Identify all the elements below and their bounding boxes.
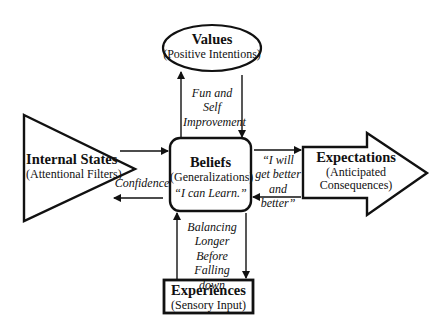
annotation-line: get better xyxy=(253,167,303,181)
experiences-subtitle: (Sensory Input) xyxy=(164,299,253,312)
expectations-label: Expectations (Anticipated Consequences) xyxy=(316,150,396,192)
values-subtitle: (Positive Intentions) xyxy=(163,48,261,61)
annotation-line: Self xyxy=(183,100,241,114)
annotation-line: Improvement xyxy=(183,115,241,129)
annotation-line: “I will xyxy=(253,153,303,167)
annotation-line: Balancing xyxy=(180,220,244,234)
internal-states-title: Internal States xyxy=(26,152,110,168)
annotation-beliefs-expectations: “I will get better and better” xyxy=(253,153,303,211)
annotation-beliefs-experiences: Balancing Longer Before Falling down xyxy=(180,220,244,292)
annotation-line: Before xyxy=(180,249,244,263)
internal-states-label: Internal States (Attentional Filters) xyxy=(26,152,110,181)
annotation-line: Fun and xyxy=(183,86,241,100)
beliefs-label: Beliefs (Generalizations) “I can Learn.” xyxy=(170,155,251,200)
beliefs-subtitle: (Generalizations) xyxy=(170,171,251,184)
annotation-line: Falling down xyxy=(180,263,244,292)
values-title: Values xyxy=(163,32,261,48)
annotation-confidence: Confidence xyxy=(114,176,170,190)
annotation-line: Longer xyxy=(180,234,244,248)
annotation-line: and better” xyxy=(253,182,303,211)
expectations-title: Expectations xyxy=(316,150,396,166)
expectations-subtitle-2: Consequences) xyxy=(316,179,396,192)
annotation-line: Confidence xyxy=(114,176,170,190)
values-label: Values (Positive Intentions) xyxy=(163,32,261,61)
beliefs-quote: “I can Learn.” xyxy=(170,187,251,200)
internal-states-subtitle: (Attentional Filters) xyxy=(26,168,110,181)
beliefs-title: Beliefs xyxy=(170,155,251,171)
annotation-values-beliefs: Fun and Self Improvement xyxy=(183,86,241,129)
